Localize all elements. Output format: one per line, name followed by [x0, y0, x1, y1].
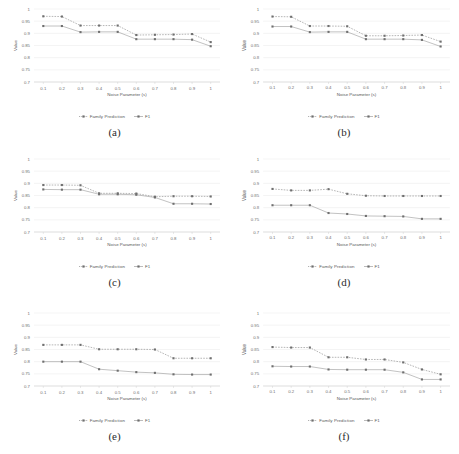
- svg-text:0.75: 0.75: [22, 371, 31, 376]
- legend-label-family-prediction: Family Prediction: [90, 418, 125, 423]
- svg-text:0.8: 0.8: [253, 55, 260, 60]
- svg-text:Noise Parameter (s): Noise Parameter (s): [107, 242, 147, 247]
- legend-marker-family-prediction-icon: [308, 418, 317, 423]
- legend-marker-f1-icon: [134, 418, 143, 423]
- legend-marker-f1-icon: [364, 264, 373, 269]
- legend-marker-f1-icon: [364, 114, 373, 119]
- svg-text:0.7: 0.7: [152, 86, 159, 91]
- svg-text:0.7: 0.7: [382, 236, 389, 241]
- subplot-caption-f: (f): [229, 430, 459, 442]
- legend-label-f1: F1: [145, 418, 150, 423]
- svg-text:0.2: 0.2: [288, 236, 295, 241]
- svg-text:0.7: 0.7: [382, 390, 389, 395]
- subplot-a: 0.70.750.80.850.90.9510.10.20.30.40.50.6…: [0, 0, 229, 150]
- svg-text:0.95: 0.95: [22, 169, 31, 174]
- svg-text:1: 1: [257, 7, 260, 12]
- svg-text:0.85: 0.85: [22, 43, 31, 48]
- svg-text:0.7: 0.7: [152, 236, 159, 241]
- svg-text:0.1: 0.1: [269, 86, 276, 91]
- svg-text:0.6: 0.6: [363, 86, 370, 91]
- svg-text:1: 1: [439, 86, 442, 91]
- legend-marker-f1-icon: [134, 114, 143, 119]
- svg-text:0.95: 0.95: [251, 19, 260, 24]
- svg-text:0.4: 0.4: [96, 390, 103, 395]
- legend-marker-family-prediction-icon: [79, 264, 88, 269]
- svg-text:0.85: 0.85: [251, 43, 260, 48]
- plot-area-a: 0.70.750.80.850.90.9510.10.20.30.40.50.6…: [0, 0, 229, 112]
- subplot-c: 0.70.750.80.850.90.9510.10.20.30.40.50.6…: [0, 150, 229, 304]
- svg-text:0.8: 0.8: [24, 205, 31, 210]
- svg-text:0.9: 0.9: [189, 86, 196, 91]
- svg-text:0.8: 0.8: [171, 86, 178, 91]
- svg-text:Value: Value: [13, 39, 18, 50]
- subplot-caption-d: (d): [229, 276, 459, 288]
- chart-svg-f: 0.70.750.80.850.90.9510.10.20.30.40.50.6…: [229, 304, 459, 416]
- svg-text:0.4: 0.4: [96, 236, 103, 241]
- svg-text:0.75: 0.75: [22, 67, 31, 72]
- svg-text:0.5: 0.5: [115, 236, 122, 241]
- subplot-caption-a: (a): [0, 126, 229, 138]
- legend-label-f1: F1: [375, 418, 380, 423]
- subplot-f: 0.70.750.80.850.90.9510.10.20.30.40.50.6…: [229, 304, 459, 454]
- legend-item-f1: F1: [364, 418, 380, 423]
- svg-text:0.9: 0.9: [253, 181, 260, 186]
- svg-text:0.4: 0.4: [96, 86, 103, 91]
- svg-text:0.4: 0.4: [326, 86, 333, 91]
- svg-text:0.5: 0.5: [115, 86, 122, 91]
- chart-svg-e: 0.70.750.80.850.90.9510.10.20.30.40.50.6…: [0, 304, 229, 416]
- legend-marker-family-prediction-icon: [308, 264, 317, 269]
- legend-item-family-prediction: Family Prediction: [308, 114, 354, 119]
- legend-label-family-prediction: Family Prediction: [90, 114, 125, 119]
- svg-text:Value: Value: [242, 344, 247, 355]
- svg-text:0.95: 0.95: [251, 169, 260, 174]
- svg-text:0.8: 0.8: [253, 359, 260, 364]
- svg-text:Value: Value: [13, 343, 18, 354]
- legend-item-f1: F1: [134, 418, 150, 423]
- legend-label-family-prediction: Family Prediction: [319, 264, 354, 269]
- plot-area-c: 0.70.750.80.850.90.9510.10.20.30.40.50.6…: [0, 150, 229, 262]
- svg-text:0.9: 0.9: [189, 390, 196, 395]
- plot-area-f: 0.70.750.80.850.90.9510.10.20.30.40.50.6…: [229, 304, 459, 416]
- svg-text:0.4: 0.4: [326, 390, 333, 395]
- svg-text:0.6: 0.6: [363, 236, 370, 241]
- plot-area-d: 0.70.750.80.850.90.9510.10.20.30.40.50.6…: [229, 150, 459, 262]
- svg-text:0.75: 0.75: [22, 217, 31, 222]
- svg-text:0.8: 0.8: [24, 55, 31, 60]
- svg-text:0.9: 0.9: [24, 335, 31, 340]
- svg-text:0.2: 0.2: [288, 86, 295, 91]
- legend-f: Family Prediction F1: [229, 415, 459, 426]
- svg-text:0.9: 0.9: [419, 236, 426, 241]
- legend-label-family-prediction: Family Prediction: [90, 264, 125, 269]
- legend-b: Family Prediction F1: [229, 111, 459, 122]
- svg-text:0.2: 0.2: [59, 390, 66, 395]
- svg-text:0.5: 0.5: [115, 390, 122, 395]
- legend-item-family-prediction: Family Prediction: [79, 418, 125, 423]
- svg-text:0.9: 0.9: [253, 31, 260, 36]
- svg-text:0.1: 0.1: [269, 390, 276, 395]
- subplot-d: 0.70.750.80.850.90.9510.10.20.30.40.50.6…: [229, 150, 459, 304]
- svg-text:0.3: 0.3: [78, 390, 85, 395]
- legend-marker-family-prediction-icon: [79, 418, 88, 423]
- svg-text:0.85: 0.85: [22, 193, 31, 198]
- legend-item-f1: F1: [134, 114, 150, 119]
- svg-text:0.75: 0.75: [251, 371, 260, 376]
- legend-item-family-prediction: Family Prediction: [79, 264, 125, 269]
- svg-text:0.85: 0.85: [251, 193, 260, 198]
- legend-marker-family-prediction-icon: [79, 114, 88, 119]
- svg-text:0.4: 0.4: [326, 236, 333, 241]
- svg-text:0.7: 0.7: [382, 86, 389, 91]
- svg-text:0.9: 0.9: [419, 390, 426, 395]
- svg-text:1: 1: [28, 157, 31, 162]
- svg-text:0.7: 0.7: [253, 230, 260, 235]
- svg-text:0.7: 0.7: [253, 384, 260, 389]
- plot-area-e: 0.70.750.80.850.90.9510.10.20.30.40.50.6…: [0, 304, 229, 416]
- svg-text:1: 1: [439, 236, 442, 241]
- legend-marker-f1-icon: [364, 418, 373, 423]
- svg-text:0.7: 0.7: [24, 384, 31, 389]
- legend-d: Family Prediction F1: [229, 261, 459, 272]
- legend-a: Family Prediction F1: [0, 111, 229, 122]
- legend-c: Family Prediction F1: [0, 261, 229, 272]
- svg-text:0.85: 0.85: [22, 347, 31, 352]
- legend-label-f1: F1: [145, 114, 150, 119]
- svg-text:1: 1: [28, 311, 31, 316]
